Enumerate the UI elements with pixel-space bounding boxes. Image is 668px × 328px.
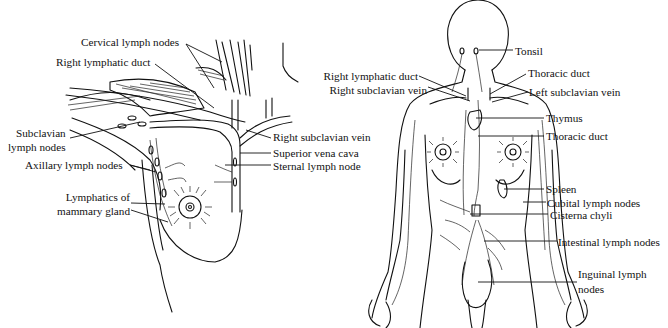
- lymphatic-system-figure: Cervical lymph nodes Right lymphatic duc…: [0, 0, 668, 328]
- label-right-lymphatic-duct-body: Right lymphatic duct: [300, 70, 418, 82]
- label-thoracic-duct: Thoracic duct: [546, 130, 608, 142]
- label-cisterna-chyli: Cisterna chyli: [550, 209, 612, 221]
- label-cervical-lymph-nodes: Cervical lymph nodes: [81, 36, 179, 48]
- label-intestinal-lymph-nodes: Intestinal lymph nodes: [558, 236, 660, 248]
- label-thoracic-duct-upper: Thoracic duct: [528, 67, 590, 79]
- label-spleen: Spleen: [546, 183, 576, 195]
- label-thymus: Thymus: [546, 112, 583, 124]
- label-cubital-lymph-nodes: Cubital lymph nodes: [547, 197, 640, 209]
- label-sternal-lymph-node: Sternal lymph node: [273, 160, 361, 172]
- label-left-subclavian-vein: Left subclavian vein: [529, 86, 620, 98]
- label-right-subclavian-vein-left: Right subclavian vein: [273, 131, 371, 143]
- label-lymphatics-of-mammary-gland-line1: Lymphatics of: [30, 191, 130, 203]
- label-subclavian-lymph-nodes-line1: Subclavian: [16, 127, 66, 139]
- label-right-subclavian-vein-body: Right subclavian vein: [300, 84, 427, 96]
- label-lymphatics-of-mammary-gland-line2: mammary gland: [30, 205, 130, 217]
- label-inguinal-lymph-nodes-line1: Inguinal lymph: [578, 268, 647, 280]
- label-superior-vena-cava: Superior vena cava: [273, 147, 359, 159]
- label-right-lymphatic-duct: Right lymphatic duct: [56, 56, 150, 68]
- label-inguinal-lymph-nodes-line2: nodes: [578, 283, 604, 295]
- label-tonsil: Tonsil: [515, 45, 543, 57]
- label-axillary-lymph-nodes: Axillary lymph nodes: [25, 159, 123, 171]
- label-subclavian-lymph-nodes-line2: lymph nodes: [8, 141, 66, 153]
